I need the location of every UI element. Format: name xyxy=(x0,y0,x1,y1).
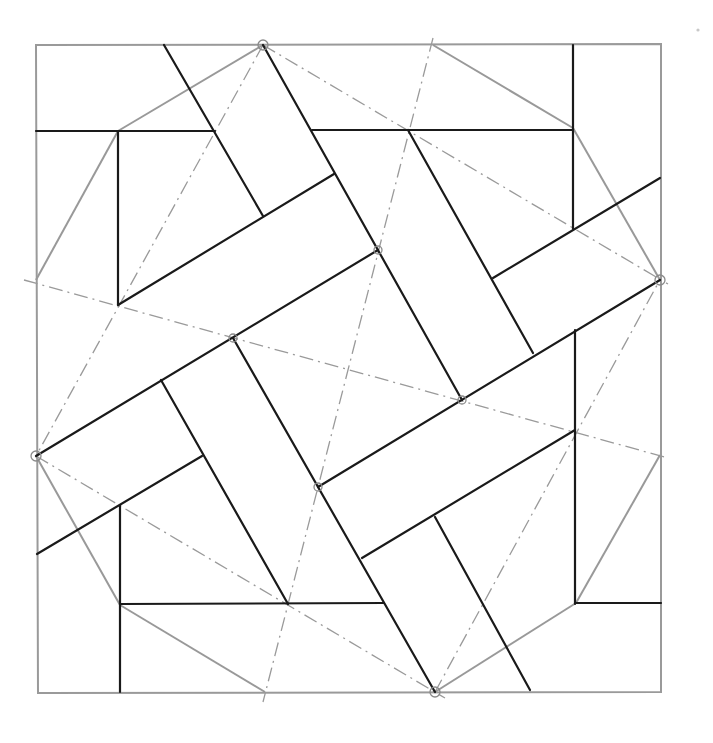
weave-line xyxy=(263,45,462,400)
octagon-edge xyxy=(118,45,263,131)
dash-dot-construction-line xyxy=(36,45,263,456)
weave-line xyxy=(161,380,288,604)
weave-line xyxy=(118,174,334,305)
octagon-edge xyxy=(36,131,118,280)
paper-speck xyxy=(696,28,699,31)
octagon-edge xyxy=(120,605,265,692)
weave-line xyxy=(318,280,660,487)
weave-line xyxy=(408,130,533,353)
weave-line xyxy=(493,178,660,278)
weave-line xyxy=(36,250,378,456)
dash-dot-construction-line xyxy=(435,276,662,692)
octagon-edge xyxy=(433,45,573,128)
octagon-edge xyxy=(576,455,660,603)
geometric-construction-diagram xyxy=(0,0,713,743)
weave-line xyxy=(233,338,435,692)
weave-line xyxy=(120,603,384,604)
dash-dot-construction-line xyxy=(36,456,445,698)
dash-dot-construction-line xyxy=(263,45,668,284)
weave-line xyxy=(362,430,575,558)
